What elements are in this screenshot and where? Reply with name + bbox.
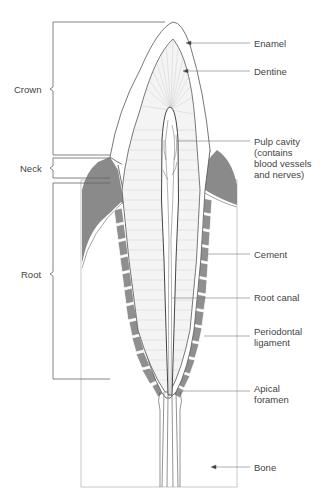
label-root-canal: Root canal: [254, 292, 299, 303]
region-label-neck: Neck: [20, 163, 42, 174]
label-enamel: Enamel: [254, 38, 286, 49]
label-dentine: Dentine: [254, 66, 287, 77]
label-cement: Cement: [254, 249, 287, 260]
label-pulp-cavity: Pulp cavity (contains blood vessels and …: [254, 136, 312, 180]
label-apical-foramen: Apical foramen: [254, 383, 289, 405]
region-label-crown: Crown: [14, 84, 41, 95]
region-label-root: Root: [21, 269, 41, 280]
label-periodontal-ligament: Periodontal ligament: [254, 326, 302, 348]
root-canal: [162, 392, 178, 487]
label-bone: Bone: [254, 462, 276, 473]
